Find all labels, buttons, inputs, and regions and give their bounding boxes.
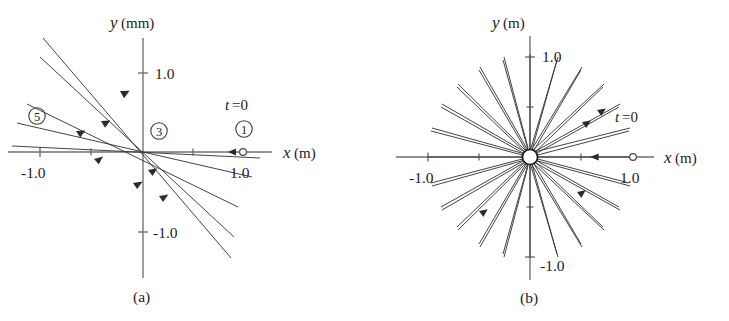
panel-a-start-marker [240, 149, 247, 156]
panel-a-line-2 [17, 123, 252, 177]
panel-b-start-marker [630, 154, 637, 161]
panel-b-time-label-value: =0 [622, 109, 638, 125]
panel-a-label-3-text: 3 [156, 125, 162, 139]
panel-a-xtick-label-neg1: -1.0 [21, 164, 46, 181]
panel-b-ray-b7 [504, 57, 528, 148]
panel-b-ray-b20 [532, 165, 582, 247]
arrow-icon-a6 [120, 91, 130, 98]
panel-b-caption: (b) [520, 289, 538, 307]
panel-b-plot: y (m) x (m) -1.0 1.0 1.0 -1.0 t =0 (b) [364, 0, 729, 321]
panel-a: y (mm) x (m) -1.0 1.0 1.0 -1.0 t =0 1 3 [0, 0, 365, 321]
panel-a-ytick-label-neg1: -1.0 [153, 224, 178, 241]
arrow-icon-a1 [228, 149, 236, 156]
panel-a-arrowheads [76, 91, 236, 202]
panel-a-y-axis-unit: (mm) [121, 15, 154, 32]
panel-b-time-label-variable: t [615, 109, 620, 125]
panel-a-label-5: 5 [29, 108, 45, 124]
panel-a-line-4 [40, 57, 234, 237]
panel-a-label-1: 1 [236, 121, 252, 137]
panel-a-caption: (a) [133, 288, 150, 306]
arrow-icon-a5 [101, 121, 110, 128]
panel-a-xtick-label-pos1: 1.0 [230, 164, 250, 181]
panel-a-label-1-text: 1 [241, 123, 247, 137]
panel-b-ray-b4 [532, 67, 582, 149]
panel-b-ray-7 [503, 60, 530, 157]
panel-b-ray-16 [479, 157, 530, 244]
arrow-icon-a2 [148, 168, 157, 176]
arrow-icon-a3 [94, 157, 103, 165]
panel-a-time-label-variable: t [225, 97, 230, 113]
panel-a-x-axis-unit: (m) [294, 145, 316, 162]
panel-b-ray-b21 [533, 163, 604, 230]
arrow-icon-b1 [590, 154, 599, 161]
panel-b-ray-13 [431, 157, 530, 183]
panel-b-xtick-label-pos1: 1.0 [620, 169, 640, 186]
panel-a-y-axis-symbol: y [108, 13, 118, 32]
panel-b-origin-marker [522, 149, 537, 164]
panel-b-ray-b16 [480, 165, 527, 247]
panel-a-ytick-label-pos1: 1.0 [155, 65, 175, 82]
panel-a-x-axis-symbol: x [282, 143, 291, 162]
panel-b-ytick-label-pos1: 1.0 [542, 48, 562, 65]
panel-a-label-3: 3 [151, 123, 167, 139]
panel-b-ray-4 [530, 70, 581, 157]
panel-b-ray-b8 [480, 67, 527, 149]
panel-b-ray-11 [431, 131, 530, 157]
panel-b-ray-b17 [504, 166, 528, 257]
panel-b-ray-1 [530, 131, 629, 157]
panel-b-ytick-label-neg1: -1.0 [540, 257, 565, 274]
panel-a-plot: y (mm) x (m) -1.0 1.0 1.0 -1.0 t =0 1 3 [0, 0, 365, 321]
panel-a-line-5 [43, 38, 231, 258]
panel-b-y-axis-unit: (m) [503, 15, 525, 32]
panel-b: y (m) x (m) -1.0 1.0 1.0 -1.0 t =0 (b) [364, 0, 729, 321]
panel-b-x-axis-unit: (m) [675, 150, 697, 167]
panel-b-ray-23 [530, 157, 629, 183]
panel-b-ray-b23 [534, 160, 630, 186]
arrow-icon-a7 [133, 182, 143, 189]
panel-b-y-axis-symbol: y [490, 13, 500, 32]
arrow-icon-b4 [577, 190, 586, 198]
panel-a-label-5-text: 5 [34, 110, 40, 124]
panel-b-ray-8 [479, 70, 530, 157]
panel-b-ray-b13 [432, 160, 525, 186]
arrow-icon-a8 [159, 194, 168, 202]
panel-a-trajectory-lines [12, 38, 260, 258]
panel-a-time-label-value: =0 [232, 97, 248, 113]
arrow-icon-b5 [479, 209, 488, 217]
panel-b-ray-b11 [432, 128, 525, 154]
panel-b-x-axis-symbol: x [663, 148, 672, 167]
figure-container: y (mm) x (m) -1.0 1.0 1.0 -1.0 t =0 1 3 [0, 0, 729, 321]
panel-b-xtick-label-neg1: -1.0 [409, 169, 434, 186]
panel-b-ray-17 [503, 157, 530, 254]
